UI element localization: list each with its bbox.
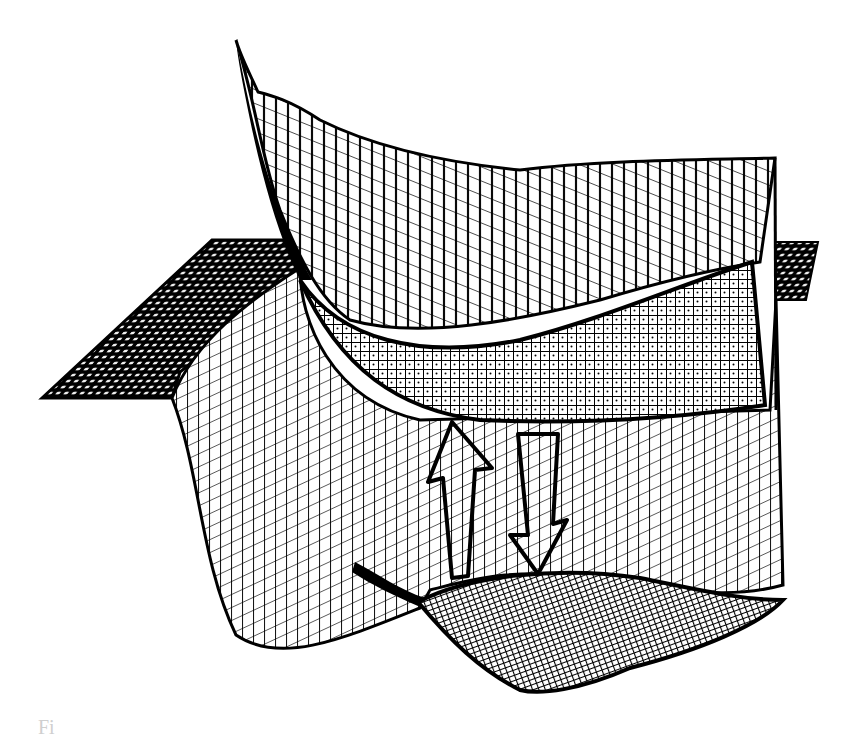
lower-surface-right-plateau <box>775 242 818 300</box>
figure-caption-fragment: Fi <box>38 716 55 738</box>
